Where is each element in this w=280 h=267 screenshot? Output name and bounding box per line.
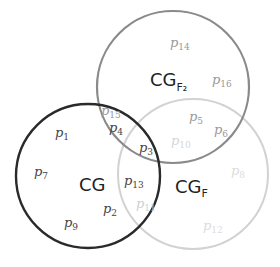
element-label-p15: p15 [101,103,121,120]
element-label-p13: p13 [124,173,144,190]
element-label-p8: p8 [231,163,245,180]
element-label-p9: p9 [64,215,78,232]
element-label-p12: p12 [203,218,223,235]
element-label-p2: p2 [103,201,117,218]
set-label-cg: CG [79,174,106,195]
element-label-p11: p11 [136,196,156,213]
element-label-p1: p1 [55,125,69,142]
element-label-p5: p5 [189,109,203,126]
element-label-p10: p10 [171,133,191,150]
element-label-p16: p16 [212,72,232,89]
set-label-cgf2: CGF₂ [150,69,187,94]
element-label-p6: p6 [214,122,228,139]
set-label-cgf: CGF [175,176,208,200]
venn-diagram: CGF₂ CG CGF p1p7p9p2p15p4p3p13p11p14p16p… [0,0,280,267]
element-label-p7: p7 [34,164,48,181]
element-label-p4: p4 [109,120,123,137]
element-label-p14: p14 [170,35,190,52]
